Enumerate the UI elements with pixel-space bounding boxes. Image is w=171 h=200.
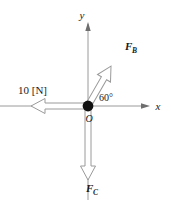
origin-label: O: [85, 113, 92, 124]
x-axis-label: x: [155, 100, 161, 112]
y-axis-arrowhead: [85, 22, 90, 31]
y-axis-label: y: [79, 9, 85, 21]
force-left-arrow-shape: [31, 99, 87, 114]
force-left-label: 10 [N]: [18, 84, 47, 96]
force-diagram-canvas: y x O 60° 10 [N] F B F C: [0, 0, 171, 200]
origin-point-dot: [83, 101, 94, 112]
force-c-label-subscript: C: [93, 188, 99, 197]
force-b-label-subscript: B: [131, 46, 137, 55]
force-left-arrow: [31, 99, 87, 114]
force-diagram-svg: y x O 60° 10 [N] F B F C: [0, 0, 171, 200]
x-axis-arrowhead: [141, 103, 150, 108]
angle-label: 60°: [99, 92, 113, 103]
